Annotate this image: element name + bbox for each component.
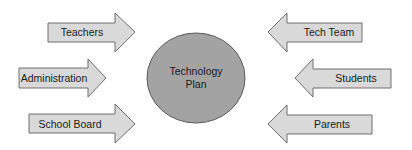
arrow-tech-team: Tech Team — [268, 13, 362, 52]
center-label-line1: Technology — [169, 65, 223, 77]
technology-plan-node: Technology Plan — [147, 33, 245, 123]
arrow-label: Teachers — [61, 26, 104, 38]
arrow-label: Parents — [314, 118, 350, 130]
stakeholder-diagram: Teachers Administration School Board Tec… — [0, 0, 412, 150]
arrow-school-board: School Board — [29, 104, 135, 143]
arrow-label: Tech Team — [304, 26, 355, 38]
arrow-label: Administration — [21, 72, 88, 84]
center-label-line2: Plan — [185, 78, 206, 90]
arrow-administration: Administration — [19, 59, 106, 97]
arrow-teachers: Teachers — [48, 13, 135, 52]
arrow-label: School Board — [38, 118, 101, 130]
arrow-label: Students — [335, 72, 376, 84]
arrow-parents: Parents — [268, 105, 372, 143]
arrow-students: Students — [295, 59, 391, 97]
